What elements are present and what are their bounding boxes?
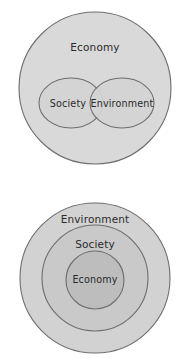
economy-centric-svg: Economy Society Environment bbox=[0, 0, 190, 181]
nested-diagram: Environment Society Economy bbox=[0, 181, 190, 363]
environment-ellipse bbox=[90, 78, 154, 128]
nested-svg: Environment Society Economy bbox=[0, 181, 190, 363]
economy-circle bbox=[66, 251, 124, 309]
economy-centric-diagram: Economy Society Environment bbox=[0, 0, 190, 181]
